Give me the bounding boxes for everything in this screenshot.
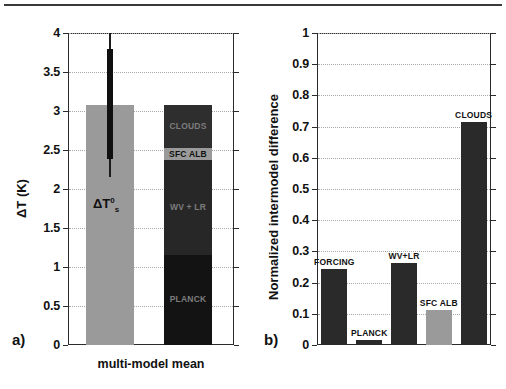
axis-tick [63, 33, 68, 34]
annot-base: ΔT [93, 196, 110, 211]
axis-tick [491, 283, 496, 284]
stack-segment: SFC ALB [164, 148, 212, 160]
y-tick-label: 0.5 [8, 300, 60, 313]
axis-tick [63, 150, 68, 151]
stack-segment: CLOUDS [164, 105, 212, 149]
y-tick-label: 1 [257, 27, 309, 40]
y-tick-label: 0.7 [257, 121, 309, 134]
axis-tick [312, 158, 317, 159]
axis-tick [234, 150, 239, 151]
y-tick-label: 3.5 [8, 66, 60, 79]
axis-tick [63, 189, 68, 190]
axis-tick [491, 345, 496, 346]
y-tick-label: 1 [8, 261, 60, 274]
axis-tick [234, 111, 239, 112]
gridline [318, 95, 490, 96]
axis-tick [63, 228, 68, 229]
axis-tick [234, 228, 239, 229]
axis-tick [312, 127, 317, 128]
bar-clouds [461, 122, 487, 345]
stack-segment-label: SFC ALB [164, 150, 212, 159]
axis-tick [234, 345, 239, 346]
y-tick-label: 2 [8, 183, 60, 196]
gridline [69, 72, 233, 73]
bar-label: FORCING [294, 258, 374, 267]
y-tick-label: 0.5 [257, 183, 309, 196]
stack-segment-label: CLOUDS [164, 122, 212, 131]
axis-tick [234, 189, 239, 190]
bar-label: WV+LR [364, 252, 444, 261]
axis-tick [234, 33, 239, 34]
y-tick-label: 1.5 [8, 222, 60, 235]
error-bar-box [107, 49, 113, 160]
axis-tick [491, 127, 496, 128]
y-tick-label: 4 [8, 27, 60, 40]
y-tick-label: 0 [8, 339, 60, 352]
axis-tick [312, 95, 317, 96]
axis-tick [312, 189, 317, 190]
axis-tick [491, 95, 496, 96]
stack-segment: WV + LR [164, 160, 212, 255]
gridline [318, 64, 490, 65]
axis-tick [491, 64, 496, 65]
y-tick-label: 0.1 [257, 308, 309, 321]
axis-tick [312, 64, 317, 65]
axis-tick [63, 72, 68, 73]
axis-tick [312, 345, 317, 346]
axis-tick [234, 267, 239, 268]
y-tick-label: 0 [257, 339, 309, 352]
y-tick-label: 0.4 [257, 214, 309, 227]
axis-tick [63, 306, 68, 307]
gridline [318, 33, 490, 34]
delta-ts0-annotation: ΔT0s [93, 197, 119, 214]
y-tick-label: 0.6 [257, 152, 309, 165]
stack-segment: PLANCK [164, 255, 212, 345]
y-tick-label: 3 [8, 105, 60, 118]
bar-planck [356, 340, 382, 345]
axis-tick [234, 306, 239, 307]
annot-sub: s [115, 205, 119, 214]
axis-tick [312, 33, 317, 34]
bar-sfc-alb [426, 310, 452, 345]
annot-sup: 0 [110, 196, 114, 205]
figure-root: ΔT (K) a) 00.511.522.533.54 ΔT0s PLANCKW… [0, 0, 506, 389]
axis-tick [312, 314, 317, 315]
axis-tick [491, 158, 496, 159]
panel-b: Normalized intermodel difference b) 00.1… [253, 0, 506, 389]
y-tick-label: 2.5 [8, 144, 60, 157]
y-tick-label: 0.2 [257, 277, 309, 290]
bar-label: CLOUDS [434, 111, 506, 120]
axis-tick [491, 251, 496, 252]
axis-tick [63, 345, 68, 346]
axis-tick [312, 251, 317, 252]
y-tick-label: 0.9 [257, 58, 309, 71]
axis-tick [491, 314, 496, 315]
axis-tick [491, 220, 496, 221]
panel-a-xlabel: multi-model mean [68, 357, 234, 371]
y-tick-label: 0.8 [257, 89, 309, 102]
axis-tick [63, 267, 68, 268]
axis-tick [491, 33, 496, 34]
axis-tick [312, 283, 317, 284]
y-tick-label: 0.3 [257, 245, 309, 258]
stack-segment-label: PLANCK [164, 295, 212, 304]
bar-feedback-stack: PLANCKWV + LRSFC ALBCLOUDS [164, 105, 212, 345]
gridline [69, 33, 233, 34]
axis-tick [234, 72, 239, 73]
axis-tick [312, 220, 317, 221]
axis-tick [63, 111, 68, 112]
panel-a: ΔT (K) a) 00.511.522.533.54 ΔT0s PLANCKW… [0, 0, 250, 389]
axis-tick [491, 189, 496, 190]
stack-segment-label: WV + LR [164, 203, 212, 212]
